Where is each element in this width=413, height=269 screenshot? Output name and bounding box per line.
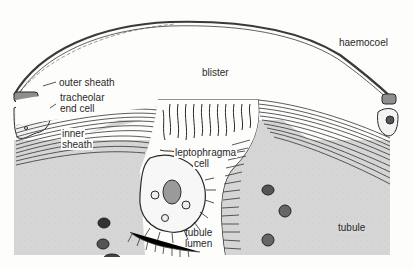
label-inner-sheath-line2: sheath bbox=[61, 139, 93, 150]
label-tubule-lumen-line2: lumen bbox=[185, 238, 212, 249]
label-tracheolar-end-cell-line2: end cell bbox=[60, 103, 94, 114]
label-outer-sheath: outer sheath bbox=[59, 77, 115, 88]
label-inner-sheath-line1: inner bbox=[61, 128, 85, 139]
label-tubule-lumen-line1: tubule bbox=[185, 227, 212, 238]
diagram-canvas: haemocoel blister outer sheath tracheola… bbox=[0, 0, 413, 269]
label-tracheolar-end-cell-line1: tracheolar bbox=[60, 92, 104, 103]
label-haemocoel: haemocoel bbox=[339, 37, 388, 48]
label-leptophragma-cell-line1: leptophragma bbox=[174, 147, 237, 158]
label-tubule: tubule bbox=[337, 222, 366, 233]
label-blister: blister bbox=[202, 67, 229, 78]
label-leptophragma-cell-line2: cell bbox=[193, 158, 210, 169]
